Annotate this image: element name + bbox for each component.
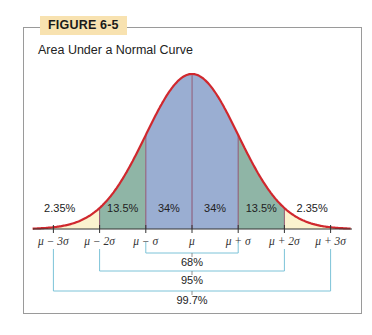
bracket-label: 68% <box>181 256 203 268</box>
region-percent-label: 13.5% <box>246 202 277 214</box>
region-percent-label: 34% <box>204 202 226 214</box>
x-tick-label: μ − 3σ <box>37 235 70 248</box>
normal-curve-chart: μ − 3σμ − 2σμ − σμμ + σμ + 2σμ + 3σ 2.35… <box>0 0 372 335</box>
region-percent-label: 2.35% <box>297 202 328 214</box>
x-tick-label: μ − 2σ <box>83 235 116 248</box>
region-percent-label: 13.5% <box>107 202 138 214</box>
x-tick-label: μ + 2σ <box>268 235 301 248</box>
region-percent-label: 2.35% <box>44 202 75 214</box>
x-tick-label: μ <box>188 235 195 248</box>
bracket-label: 95% <box>181 274 203 286</box>
x-tick-label: μ + 3σ <box>314 235 347 248</box>
bracket-label: 99.7% <box>176 294 207 306</box>
region-percent-label: 34% <box>158 202 180 214</box>
